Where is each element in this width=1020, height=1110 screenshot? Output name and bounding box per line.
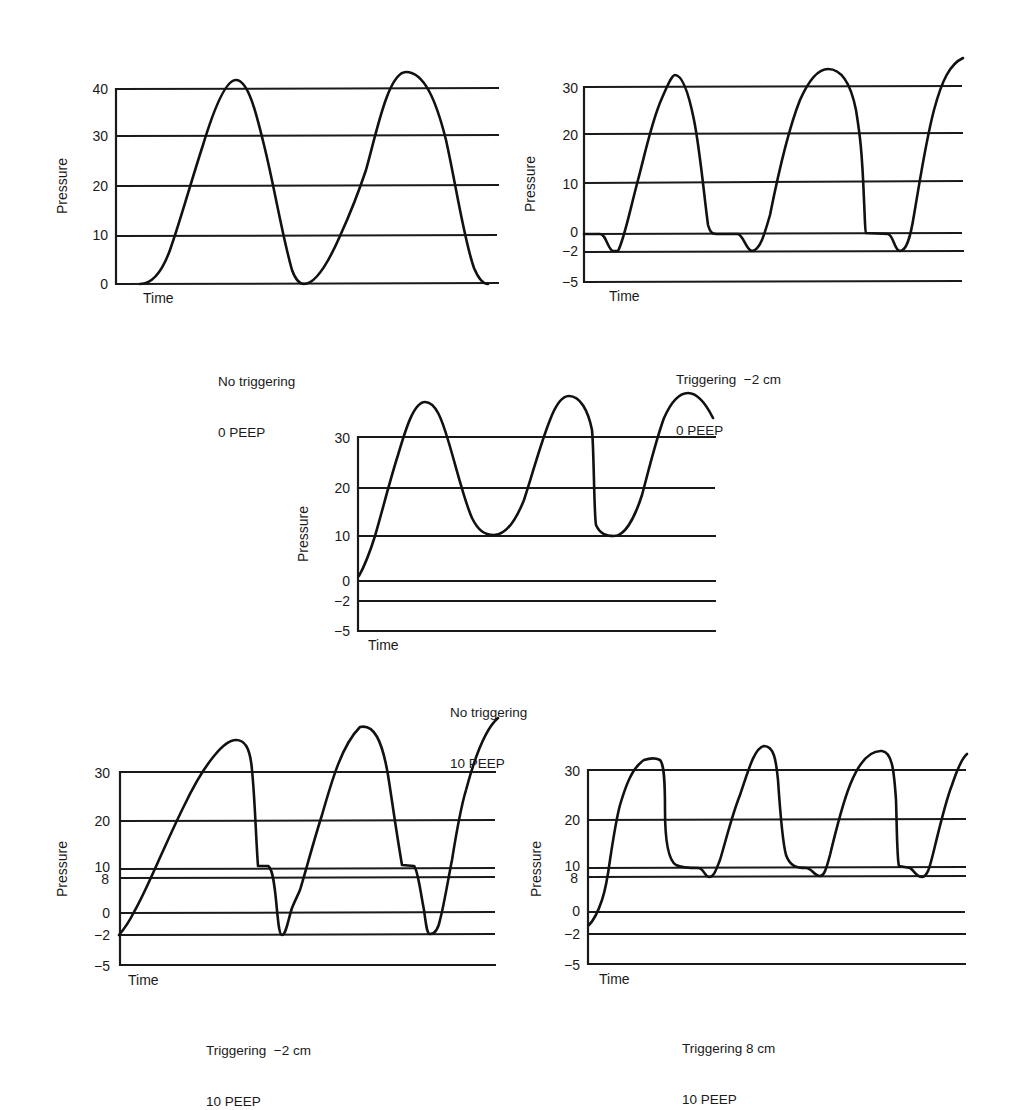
y-axis-label: Pressure	[522, 156, 538, 212]
gridline-20	[588, 819, 966, 820]
tick-label: −5	[564, 957, 580, 973]
gridline-minus2	[584, 251, 964, 252]
caption-line-1: Triggering 8 cm	[682, 1040, 775, 1057]
x-axis-label: Time	[609, 288, 640, 304]
caption-line-2: 10 PEEP	[206, 1093, 311, 1110]
x-axis-label: Time	[599, 971, 630, 987]
caption-line-2: 0 PEEP	[218, 424, 295, 441]
tick-label: −5	[562, 274, 578, 290]
caption-chart-3: No triggering 10 PEEP	[450, 670, 527, 789]
pressure-curve	[119, 718, 498, 935]
caption-chart-4: Triggering −2 cm 10 PEEP	[206, 1008, 311, 1110]
gridline-10	[116, 235, 497, 236]
gridline-30	[584, 86, 962, 87]
y-axis-label: Pressure	[295, 506, 311, 562]
tick-label: 10	[92, 227, 108, 243]
tick-label: −5	[94, 958, 110, 974]
chart-trigger-minus2-0-peep: 30 20 10 0 −2 −5 Pressure Time	[522, 58, 964, 304]
caption-line-1: No triggering	[218, 373, 295, 390]
tick-label: 0	[102, 905, 110, 921]
tick-label: −2	[334, 593, 350, 609]
pressure-curve	[359, 393, 713, 576]
tick-label: 20	[334, 480, 350, 496]
tick-label: 30	[94, 765, 110, 781]
gridline-0	[120, 912, 495, 913]
caption-line-1: Triggering −2 cm	[206, 1042, 311, 1059]
gridline-30	[116, 135, 499, 136]
tick-label: 0	[572, 903, 580, 919]
tick-label: 30	[92, 128, 108, 144]
caption-chart-5: Triggering 8 cm 10 PEEP	[682, 1006, 775, 1110]
caption-chart-1: No triggering 0 PEEP	[218, 339, 295, 458]
tick-label: 0	[100, 276, 108, 292]
pressure-curve	[140, 72, 488, 284]
tick-label: 40	[92, 81, 108, 97]
tick-label: 10	[334, 528, 350, 544]
tick-label: 30	[564, 763, 580, 779]
tick-label: 8	[101, 871, 109, 887]
caption-line-2: 10 PEEP	[450, 755, 527, 772]
tick-label: −2	[94, 927, 110, 943]
tick-label: 30	[562, 80, 578, 96]
tick-label: 30	[334, 430, 350, 446]
gridline-10	[584, 181, 963, 183]
y-axis-label: Pressure	[54, 158, 70, 214]
tick-label: 20	[564, 812, 580, 828]
tick-label: 20	[94, 813, 110, 829]
x-axis-label: Time	[143, 290, 174, 306]
caption-line-2: 10 PEEP	[682, 1091, 775, 1108]
gridline-40	[116, 88, 499, 89]
chart-no-trigger-0-peep: 40 30 20 10 0 Pressure Time	[54, 72, 499, 306]
chart-trigger-minus2-10-peep: 30 20 10 8 0 −2 −5 Pressure Time	[54, 718, 498, 988]
caption-line-1: No triggering	[450, 704, 527, 721]
tick-label: 8	[570, 870, 578, 886]
chart-no-trigger-10-peep: 30 20 10 0 −2 −5 Pressure Time	[295, 393, 716, 653]
tick-label: 20	[562, 127, 578, 143]
tick-label: 10	[562, 176, 578, 192]
tick-label: 0	[342, 573, 350, 589]
pressure-curve	[589, 746, 967, 925]
gridline-0	[584, 233, 962, 234]
x-axis-label: Time	[128, 972, 159, 988]
chart-trigger-8-10-peep: 30 20 10 8 0 −2 −5 Pressure Time	[528, 746, 967, 987]
caption-chart-2: Triggering −2 cm 0 PEEP	[676, 337, 781, 456]
tick-label: −2	[562, 243, 578, 259]
gridline-8	[588, 876, 966, 877]
gridline-8	[120, 877, 495, 878]
tick-label: −2	[564, 926, 580, 942]
y-axis-label: Pressure	[54, 841, 70, 897]
x-axis-label: Time	[368, 637, 399, 653]
tick-label: 20	[92, 178, 108, 194]
gridline-minus2	[120, 934, 495, 935]
gridline-minus5	[584, 281, 962, 282]
tick-label: −5	[334, 623, 350, 639]
gridline-20	[116, 185, 499, 186]
gridline-20	[584, 133, 963, 134]
caption-line-2: 0 PEEP	[676, 422, 781, 439]
y-axis-label: Pressure	[528, 841, 544, 897]
caption-line-1: Triggering −2 cm	[676, 371, 781, 388]
tick-label: 0	[570, 224, 578, 240]
